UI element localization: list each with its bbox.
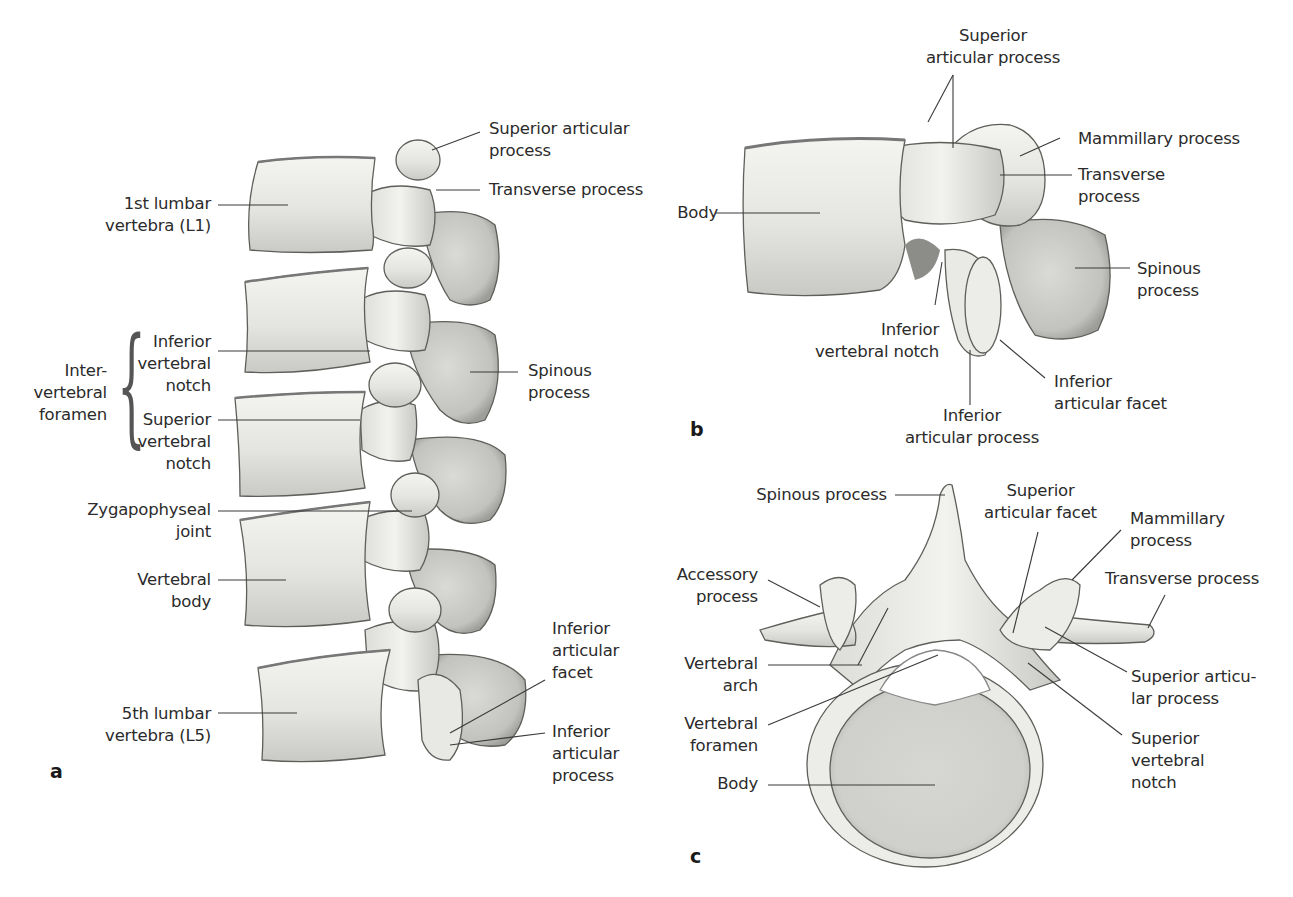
label-b-mammillary-process: Mammillary process	[1078, 128, 1240, 150]
label-c-accessory-process: Accessory process	[677, 564, 758, 608]
label-intervertebral-foramen: Inter- vertebral foramen	[34, 360, 107, 426]
lumbar-vertebrae-figure: 1st lumbar vertebra (L1) Superior articu…	[0, 0, 1293, 897]
label-c-superior-articular-facet: Superior articular facet	[963, 480, 1118, 524]
label-a-superior-articular-process: Superior articular process	[489, 118, 629, 162]
label-b-inferior-articular-process: Inferior articular process	[872, 405, 1072, 449]
panel-c-illustration	[760, 484, 1154, 867]
panel-letter-b: b	[690, 418, 704, 440]
label-c-vertebral-arch: Vertebral arch	[684, 653, 758, 697]
label-c-vertebral-foramen: Vertebral foramen	[684, 713, 758, 757]
panel-letter-c: c	[690, 845, 701, 867]
panel-a-illustration	[235, 140, 526, 762]
label-c-body: Body	[717, 773, 758, 795]
label-b-transverse-process: Transverse process	[1078, 164, 1165, 208]
label-c-spinous-process: Spinous process	[756, 484, 887, 506]
label-b-body: Body	[677, 202, 718, 224]
label-l1-vertebra: 1st lumbar vertebra (L1)	[105, 193, 211, 237]
panel-letter-a: a	[50, 760, 63, 782]
label-c-transverse-process: Transverse process	[1105, 568, 1259, 590]
label-a-spinous-process: Spinous process	[528, 360, 592, 404]
label-c-superior-articular-process: Superior articu- lar process	[1131, 666, 1256, 710]
label-a-inferior-articular-process: Inferior articular process	[552, 721, 619, 787]
label-a-inferior-vertebral-notch: Inferior vertebral notch	[138, 331, 211, 397]
label-c-superior-vertebral-notch: Superior vertebral notch	[1131, 728, 1204, 794]
label-b-spinous-process: Spinous process	[1137, 258, 1201, 302]
label-zygapophyseal-joint: Zygapophyseal joint	[87, 499, 211, 543]
label-b-superior-articular-process: Superior articular process	[893, 25, 1093, 69]
label-b-inferior-vertebral-notch: Inferior vertebral notch	[815, 319, 939, 363]
label-a-superior-vertebral-notch: Superior vertebral notch	[138, 409, 211, 475]
label-a-transverse-process: Transverse process	[489, 179, 643, 201]
label-a-inferior-articular-facet: Inferior articular facet	[552, 618, 619, 684]
label-vertebral-body: Vertebral body	[137, 569, 211, 613]
label-c-mammillary-process: Mammillary process	[1130, 508, 1225, 552]
label-l5-vertebra: 5th lumbar vertebra (L5)	[105, 703, 211, 747]
